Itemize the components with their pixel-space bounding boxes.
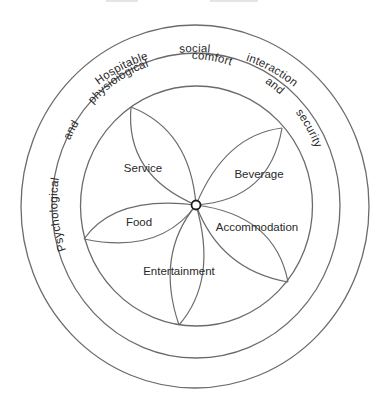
svg-text:and: and	[61, 118, 81, 141]
center-hub-node	[192, 201, 201, 210]
petal-label-service: Service	[124, 162, 162, 174]
petal-label-accommodation: Accommodation	[216, 221, 298, 233]
petal-service: Service	[124, 107, 196, 205]
petal-label-food: Food	[126, 216, 152, 228]
petal-label-beverage: Beverage	[234, 168, 283, 180]
middle-word-and-1: and	[61, 118, 81, 141]
middle-word-psychological: Psychological	[47, 177, 68, 254]
hospitality-diagram: Hospitable social interaction Psychologi…	[0, 0, 389, 408]
petal-label-entertainment: Entertainment	[143, 265, 215, 277]
cropped-header-remnant	[106, 0, 258, 2]
petal-food: Food	[84, 203, 196, 243]
petal-beverage: Beverage	[196, 128, 284, 205]
svg-text:Psychological: Psychological	[47, 177, 68, 254]
